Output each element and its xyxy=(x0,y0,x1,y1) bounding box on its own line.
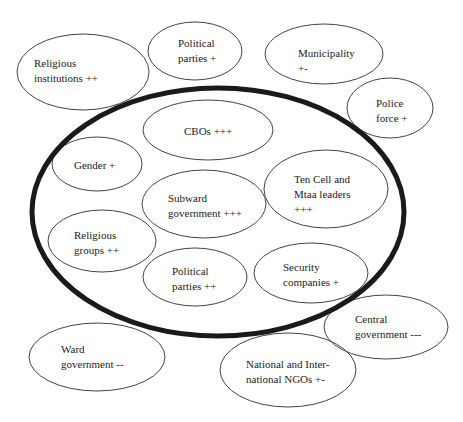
node-label-cbos: CBOs +++ xyxy=(184,124,232,139)
node-label-ten-cell-mtaa-leaders: Ten Cell and Mtaa leaders +++ xyxy=(294,172,351,217)
node-label-religious-groups: Religious groups ++ xyxy=(74,228,119,258)
node-label-religious-institutions: Religious institutions ++ xyxy=(34,56,98,86)
node-label-gender: Gender + xyxy=(74,158,115,173)
node-label-ward-government: Ward government -- xyxy=(61,342,124,372)
node-label-national-international-ngos: National and Inter- national NGOs +- xyxy=(246,357,329,387)
node-label-political-parties-outer: Political parties + xyxy=(178,36,216,66)
node-label-subward-government: Subward government +++ xyxy=(168,191,242,221)
node-label-police-force: Police force + xyxy=(376,96,408,126)
node-label-central-government: Central government --- xyxy=(355,312,421,342)
node-label-political-parties-inner: Political parties ++ xyxy=(172,264,216,294)
node-label-municipality: Municipality +- xyxy=(298,46,355,76)
node-label-security-companies: Security companies + xyxy=(283,260,339,290)
